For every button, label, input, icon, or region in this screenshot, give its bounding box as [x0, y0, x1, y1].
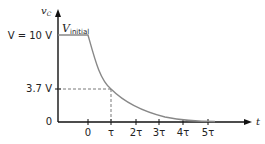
x-label-5tau: 5τ [202, 127, 214, 138]
y-axis-arrow-icon [55, 9, 61, 17]
y-label-zero: 0 [46, 116, 52, 127]
voltage-curve [58, 35, 215, 122]
rc-discharge-chart: vC Vinitial V = 10 V 3.7 V 0 0 τ 2τ 3τ 4… [0, 0, 265, 144]
v-initial-label: Vinitial [62, 22, 89, 36]
x-label-tau: τ [108, 127, 114, 138]
x-axis-arrow-icon [244, 119, 252, 125]
x-label-0: 0 [85, 127, 91, 138]
x-label-4tau: 4τ [177, 127, 189, 138]
y-label-10v: V = 10 V [8, 30, 52, 41]
y-label-3-7v: 3.7 V [26, 83, 52, 94]
y-axis-label: vC [41, 5, 52, 17]
x-label-2tau: 2τ [130, 127, 142, 138]
x-axis-label: t [256, 116, 261, 127]
x-label-3tau: 3τ [153, 127, 165, 138]
